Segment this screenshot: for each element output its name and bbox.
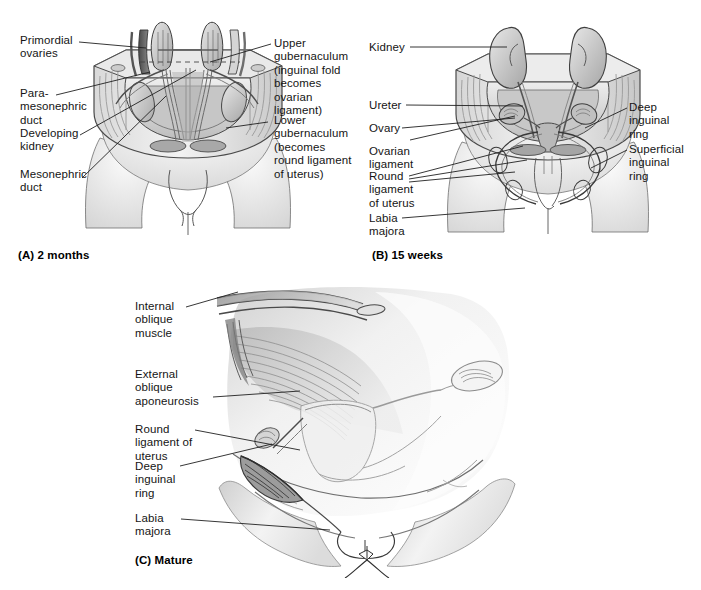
label-round-ligament-of-uterus: Round ligament of uterus [135,423,213,463]
label-primordial-ovaries: Primordial ovaries [20,34,92,61]
label-ovary: Ovary [369,122,429,135]
panel-b: Kidney Ureter Ovary Ovarian ligament Rou… [355,0,701,275]
panel-a-caption: (A) 2 months [18,249,89,261]
label-labia-majora: Labia majora [369,212,429,239]
panel-b-caption: (B) 15 weeks [372,249,443,261]
label-developing-kidney: Developing kidney [20,127,96,154]
label-mesonephric-duct: Mesonephric duct [20,168,100,195]
label-deep-inguinal-ring: Deep inguinal ring [135,460,199,500]
panel-c: Internal oblique muscle External oblique… [0,278,701,590]
panel-b-illustration [440,22,655,237]
label-kidney: Kidney [369,41,429,54]
panel-c-caption: (C) Mature [135,554,193,566]
panel-a-illustration [80,20,295,235]
label-lower-gubernaculum: Lower gubernaculum (becomes round ligame… [274,114,352,181]
panel-a: Primordial ovaries Para- mesonephric duc… [0,0,350,275]
label-labia-majora: Labia majora [135,512,199,539]
label-paramesonephric-duct: Para- mesonephric duct [20,87,96,127]
label-round-ligament-of-uterus: Round ligament of uterus [369,170,431,210]
label-ureter: Ureter [369,99,429,112]
label-external-oblique-aponeurosis: External oblique aponeurosis [135,368,215,408]
panel-c-illustration [215,278,525,578]
anatomy-figure: Primordial ovaries Para- mesonephric duc… [0,0,701,590]
label-internal-oblique-muscle: Internal oblique muscle [135,300,199,340]
label-ovarian-ligament: Ovarian ligament [369,145,431,172]
label-superficial-inguinal-ring: Superficial inguinal ring [629,143,699,183]
label-deep-inguinal-ring: Deep inguinal ring [629,101,695,141]
label-upper-gubernaculum: Upper gubernaculum (inguinal fold become… [274,37,352,117]
